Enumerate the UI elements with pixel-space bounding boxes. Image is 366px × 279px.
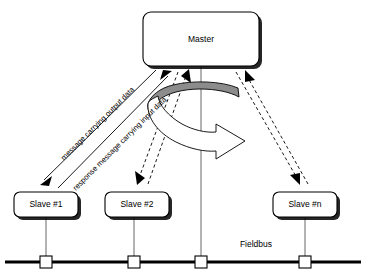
flow-label-output: message carrying output data [59,85,137,163]
drop-lines [46,67,305,258]
bus-connector-slave1 [40,256,52,268]
dashed-in-slaven-line [248,78,308,184]
message-arrows-slave1 [40,70,172,188]
slaven-label: Slave #n [288,199,321,209]
bus-connector-master [195,256,207,268]
rotation-arrow [148,82,245,159]
node-master[interactable]: Master [143,12,262,69]
fieldbus-diagram: Master Slave #1 Slave #2 Slave #n Fieldb… [0,0,366,279]
dashed-in-slave2-head [181,69,191,83]
slave1-label: Slave #1 [29,199,62,209]
dashed-out-slaven-head [290,173,300,185]
arrow-input-data-line [58,76,168,188]
fieldbus-label: Fieldbus [240,239,272,249]
bus-connector-slave2 [128,256,140,268]
dashed-in-slaven-head [245,70,255,82]
bus-connector-slaven [299,256,311,268]
diagram-canvas: Master Slave #1 Slave #2 Slave #n Fieldb… [0,0,366,279]
message-arrows-slaven [236,70,308,185]
slave2-label: Slave #2 [120,199,153,209]
master-label: Master [188,34,214,44]
flow-label-input: response message carrying input data [71,94,169,192]
fieldbus: Fieldbus [5,239,361,268]
node-slave1[interactable]: Slave #1 [14,192,81,220]
node-slave2[interactable]: Slave #2 [105,192,172,220]
node-slaven[interactable]: Slave #n [273,192,340,220]
dashed-out-slave2-head [135,171,145,185]
dashed-out-slaven-line [236,72,297,178]
